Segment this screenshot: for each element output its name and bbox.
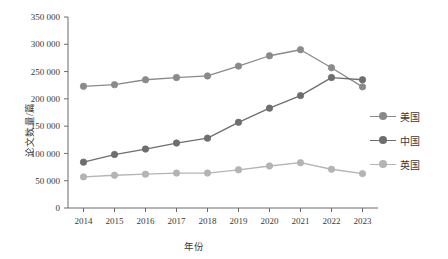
data-point xyxy=(142,77,148,83)
data-point xyxy=(297,47,303,53)
y-axis-tick-label: 50 000 xyxy=(35,176,60,186)
series-line xyxy=(84,50,363,87)
legend-label-uk: 英国 xyxy=(400,157,420,172)
legend-dot-china xyxy=(379,136,387,144)
data-point xyxy=(173,74,179,80)
data-point xyxy=(204,135,210,141)
data-point xyxy=(359,77,365,83)
x-axis-tick-label: 2017 xyxy=(168,216,187,226)
legend-label-china: 中国 xyxy=(400,133,420,148)
x-axis-tick-label: 2022 xyxy=(323,216,341,226)
legend-dot-usa xyxy=(379,112,387,120)
data-point xyxy=(359,84,365,90)
data-point xyxy=(204,73,210,79)
legend-swatch-china xyxy=(370,135,396,145)
y-axis-tick-label: 150 000 xyxy=(31,121,61,131)
legend-item-uk[interactable]: 英国 xyxy=(370,152,444,176)
x-axis-tick-label: 2023 xyxy=(354,216,373,226)
x-axis-tick-label: 2019 xyxy=(230,216,249,226)
data-point xyxy=(173,170,179,176)
data-point xyxy=(235,63,241,69)
data-point xyxy=(80,174,86,180)
data-point xyxy=(328,65,334,71)
data-point xyxy=(111,151,117,157)
data-point xyxy=(359,170,365,176)
legend-swatch-usa xyxy=(370,111,396,121)
x-axis-title: 年份 xyxy=(0,239,448,253)
legend-dot-uk xyxy=(379,160,387,168)
data-point xyxy=(111,172,117,178)
chart-legend: 美国 中国 英国 xyxy=(370,104,444,176)
data-point xyxy=(80,83,86,89)
data-point xyxy=(297,160,303,166)
x-axis-tick-label: 2016 xyxy=(137,216,156,226)
data-point xyxy=(173,140,179,146)
series-line xyxy=(84,163,363,177)
y-axis-tick-label: 0 xyxy=(56,203,61,213)
x-axis-tick-label: 2014 xyxy=(75,216,94,226)
x-axis-tick-label: 2020 xyxy=(261,216,280,226)
data-point xyxy=(266,53,272,59)
data-point xyxy=(204,170,210,176)
x-axis-tick-label: 2021 xyxy=(292,216,310,226)
data-point xyxy=(266,105,272,111)
x-axis-tick-label: 2015 xyxy=(106,216,125,226)
data-point xyxy=(235,119,241,125)
series-line xyxy=(84,78,363,163)
y-axis-tick-label: 200 000 xyxy=(31,94,61,104)
data-point xyxy=(142,146,148,152)
data-point xyxy=(328,74,334,80)
data-point xyxy=(266,163,272,169)
data-point xyxy=(142,171,148,177)
line-chart: 论文数量/篇 050 000100 000150 000200 000250 0… xyxy=(0,0,448,259)
legend-item-china[interactable]: 中国 xyxy=(370,128,444,152)
legend-swatch-uk xyxy=(370,159,396,169)
data-point xyxy=(328,166,334,172)
data-point xyxy=(297,92,303,98)
y-axis-tick-label: 350 000 xyxy=(31,12,61,22)
y-axis-tick-label: 250 000 xyxy=(31,67,61,77)
legend-item-usa[interactable]: 美国 xyxy=(370,104,444,128)
y-axis-tick-label: 300 000 xyxy=(31,39,61,49)
legend-label-usa: 美国 xyxy=(400,109,420,124)
data-point xyxy=(111,81,117,87)
data-point xyxy=(235,167,241,173)
x-axis-tick-label: 2018 xyxy=(199,216,218,226)
data-point xyxy=(80,159,86,165)
y-axis-tick-label: 100 000 xyxy=(31,149,61,159)
